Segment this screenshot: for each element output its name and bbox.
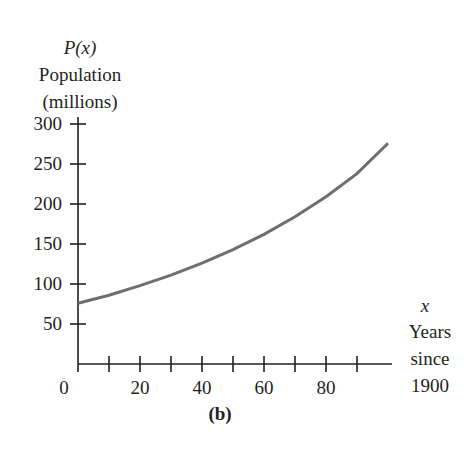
population-curve bbox=[78, 143, 388, 303]
y-tick-label: 200 bbox=[0, 194, 62, 213]
x-axis-title-line1: Years bbox=[395, 322, 465, 341]
x-axis-variable: x bbox=[400, 296, 450, 315]
y-tick-label: 250 bbox=[0, 154, 62, 173]
x-tick-label: 80 bbox=[306, 378, 346, 397]
y-axis-title: Population bbox=[20, 65, 140, 84]
x-tick-label: 60 bbox=[244, 378, 284, 397]
panel-label: (b) bbox=[200, 404, 240, 423]
y-axis-unit: (millions) bbox=[20, 92, 140, 111]
y-tick-label: 300 bbox=[0, 114, 62, 133]
x-axis-title-line2: since bbox=[395, 349, 465, 368]
axes bbox=[70, 117, 392, 372]
x-axis-title-line3: 1900 bbox=[395, 376, 465, 395]
y-tick-label: 100 bbox=[0, 274, 62, 293]
x-tick-label: 40 bbox=[182, 378, 222, 397]
y-tick-label: 150 bbox=[0, 234, 62, 253]
y-tick-label: 50 bbox=[0, 314, 62, 333]
x-tick-label: 20 bbox=[120, 378, 160, 397]
x-tick-label: 0 bbox=[44, 378, 84, 397]
y-axis-variable: P(x) bbox=[40, 38, 120, 57]
